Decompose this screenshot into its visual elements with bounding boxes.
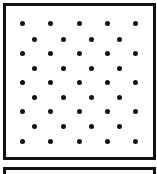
lattice-dot [32, 37, 37, 42]
lattice-dot [105, 139, 110, 144]
lattice-dot [105, 109, 110, 114]
lattice-dot [48, 139, 53, 144]
lattice-dot [117, 124, 122, 129]
lattice-dot [117, 95, 122, 100]
lattice-dot [20, 51, 25, 56]
lattice-dot [77, 21, 82, 26]
lattice-dot [32, 124, 37, 129]
lattice-dot [32, 66, 37, 71]
lattice-dot [48, 21, 53, 26]
lattice-dot [89, 124, 94, 129]
lattice-dot [117, 37, 122, 42]
lattice-dot [105, 80, 110, 85]
lattice-dot [20, 109, 25, 114]
lattice-dot [20, 21, 25, 26]
lattice-dot [77, 109, 82, 114]
lattice-dot [133, 109, 138, 114]
lattice-dot [117, 66, 122, 71]
lattice-dot [32, 95, 37, 100]
lattice-dot [20, 139, 25, 144]
lattice-dot [48, 109, 53, 114]
lattice-dot [133, 80, 138, 85]
lattice-dot [61, 124, 66, 129]
lattice-dot [48, 51, 53, 56]
lattice-dot [133, 21, 138, 26]
lattice-dot [105, 51, 110, 56]
second-panel [3, 167, 156, 174]
lattice-dot [133, 51, 138, 56]
lattice-dot [77, 139, 82, 144]
lattice-dot [61, 37, 66, 42]
lattice-dot [89, 95, 94, 100]
lattice-dot [20, 80, 25, 85]
lattice-dot [61, 66, 66, 71]
lattice-dot [61, 95, 66, 100]
lattice-dot [89, 37, 94, 42]
lattice-dot [133, 139, 138, 144]
lattice-dot [105, 21, 110, 26]
lattice-dot [48, 80, 53, 85]
lattice-dot [77, 51, 82, 56]
lattice-dot [77, 80, 82, 85]
lattice-dot [89, 66, 94, 71]
